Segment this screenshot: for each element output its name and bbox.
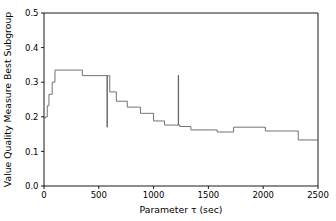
x-axis-label: Parameter τ (sec): [140, 204, 223, 215]
x-tick-label: 1500: [198, 190, 220, 200]
plot-frame: [44, 13, 318, 186]
axes-frame: [44, 13, 318, 186]
y-tick-label: 0.1: [25, 147, 39, 157]
chart-canvas: 0.00.10.20.30.40.5 05001000150020002500 …: [0, 0, 336, 221]
y-tick-label: 0.3: [25, 77, 39, 87]
y-axis-ticks: 0.00.10.20.30.40.5: [25, 8, 44, 191]
y-axis-label: Value Quality Measure Best Subgroup: [2, 12, 13, 187]
x-tick-label: 1000: [143, 190, 165, 200]
x-tick-label: 2000: [252, 190, 274, 200]
y-tick-label: 0.2: [25, 112, 39, 122]
x-tick-label: 0: [41, 190, 46, 200]
series-line-best-subgroup: [44, 70, 318, 140]
chart-figure: 0.00.10.20.30.40.5 05001000150020002500 …: [0, 0, 336, 221]
data-series-group: [44, 70, 318, 140]
x-tick-label: 2500: [307, 190, 329, 200]
y-tick-label: 0.5: [25, 8, 39, 18]
y-tick-label: 0.0: [25, 181, 39, 191]
y-tick-label: 0.4: [25, 43, 39, 53]
x-axis-ticks: 05001000150020002500: [41, 186, 329, 200]
x-tick-label: 500: [91, 190, 107, 200]
